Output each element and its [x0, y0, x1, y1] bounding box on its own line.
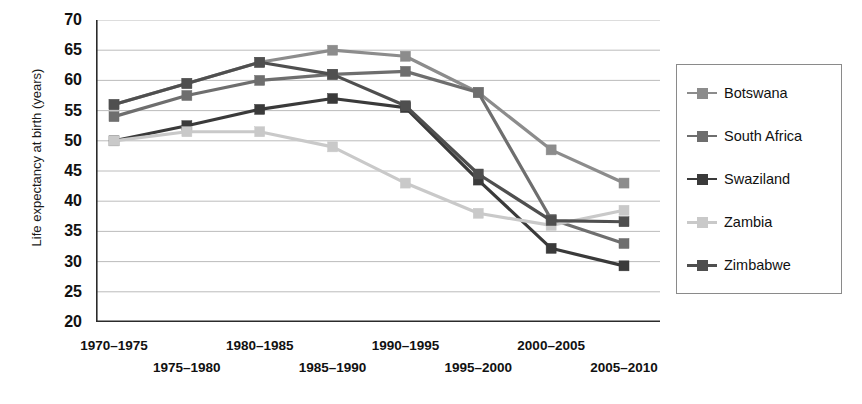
- x-tick-label: 1975–1980: [153, 360, 221, 375]
- legend-item-list: BotswanaSouth AfricaSwazilandZambiaZimba…: [677, 65, 841, 293]
- legend-square-swatch: [697, 260, 708, 271]
- x-tick-label: 1970–1975: [80, 338, 148, 353]
- legend-item-label: Botswana: [724, 85, 788, 101]
- x-tick-label: 2005–2010: [590, 360, 658, 375]
- chart-figure: Life expectancy at birth (years) 7065605…: [0, 0, 862, 404]
- x-tick-label: 2000–2005: [517, 338, 585, 353]
- legend-square-swatch: [697, 217, 708, 228]
- legend-marker-icon: [687, 130, 717, 142]
- legend-item-zimbabwe[interactable]: Zimbabwe: [687, 252, 841, 278]
- legend-square-swatch: [697, 174, 708, 185]
- legend-marker-icon: [687, 216, 717, 228]
- legend-item-label: Zimbabwe: [724, 257, 791, 273]
- chart-legend: BotswanaSouth AfricaSwazilandZambiaZimba…: [676, 64, 842, 294]
- x-tick-label: 1980–1985: [226, 338, 294, 353]
- legend-marker-icon: [687, 87, 717, 99]
- legend-item-zambia[interactable]: Zambia: [687, 209, 841, 235]
- legend-item-swaziland[interactable]: Swaziland: [687, 166, 841, 192]
- legend-square-swatch: [697, 131, 708, 142]
- legend-square-swatch: [697, 88, 708, 99]
- x-tick-label: 1985–1990: [299, 360, 367, 375]
- legend-item-label: South Africa: [724, 128, 802, 144]
- legend-marker-icon: [687, 259, 717, 271]
- legend-item-label: Swaziland: [724, 171, 790, 187]
- legend-item-label: Zambia: [724, 214, 772, 230]
- legend-item-south-africa[interactable]: South Africa: [687, 123, 841, 149]
- x-tick-label: 1990–1995: [372, 338, 440, 353]
- legend-marker-icon: [687, 173, 717, 185]
- legend-item-botswana[interactable]: Botswana: [687, 80, 841, 106]
- x-tick-label: 1995–2000: [444, 360, 512, 375]
